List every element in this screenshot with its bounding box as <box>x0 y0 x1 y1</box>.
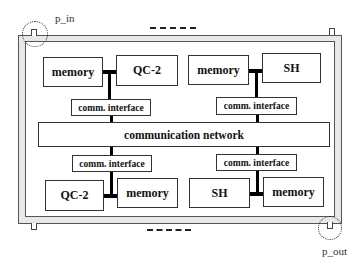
bottom-left-comm-interface: comm. interface <box>72 155 152 172</box>
continuation-dashes-bottom <box>147 229 191 231</box>
link-bottom-left-horizontal <box>104 194 117 198</box>
bottom-right-sh-block: SH <box>189 178 250 208</box>
link-bottom-right-horizontal <box>250 192 263 196</box>
communication-network-bus: communication network <box>38 122 330 147</box>
output-port-highlight <box>318 216 342 240</box>
bottom-left-memory-block: memory <box>117 178 178 208</box>
continuation-dashes-top <box>150 27 196 29</box>
port-bottom-left <box>31 223 37 230</box>
top-right-comm-interface: comm. interface <box>216 97 297 115</box>
top-right-sh-block: SH <box>262 53 321 83</box>
link-top-left-vertical <box>108 70 111 99</box>
output-port-label: p_out <box>322 245 347 257</box>
top-left-memory-block: memory <box>43 57 103 87</box>
top-left-qc2-block: QC-2 <box>116 55 178 86</box>
bottom-right-memory-block: memory <box>263 177 324 207</box>
top-left-comm-interface: comm. interface <box>71 99 151 116</box>
top-right-memory-block: memory <box>188 55 249 85</box>
link-bottom-left-from-network <box>110 147 113 155</box>
bottom-left-qc2-block: QC-2 <box>45 180 104 211</box>
link-top-right-vertical <box>255 69 258 97</box>
input-port-label: p_in <box>55 12 75 24</box>
input-port-highlight <box>22 21 48 47</box>
port-top-right <box>329 28 335 35</box>
link-bottom-right-from-network <box>256 147 259 154</box>
bottom-right-comm-interface: comm. interface <box>216 154 297 171</box>
